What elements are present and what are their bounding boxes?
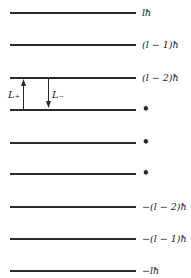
raising-arrow-icon [21,79,26,110]
raising-operator-label: L₊ [8,90,20,100]
operator-arrows [0,0,191,278]
lowering-operator-label: L₋ [52,90,64,100]
lowering-arrow-icon [46,78,51,108]
